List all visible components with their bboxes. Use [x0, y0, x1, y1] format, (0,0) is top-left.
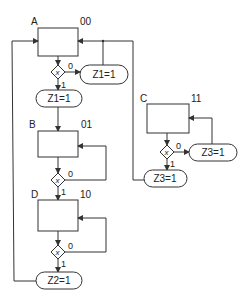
- decision-c-one: 1: [170, 159, 175, 169]
- state-b-box: [38, 131, 78, 157]
- state-b: B 01: [29, 119, 93, 157]
- decision-a-zero: 0: [68, 61, 73, 71]
- decision-c: x 0 1: [160, 141, 181, 169]
- state-d-code: 10: [80, 189, 92, 200]
- state-c-label: C: [140, 93, 147, 104]
- output-c-one-label: Z3=1: [153, 173, 177, 184]
- decision-c-zero: 0: [176, 141, 181, 151]
- state-d-label: D: [31, 189, 38, 200]
- state-b-label: B: [29, 119, 36, 130]
- state-a-box: [38, 28, 78, 56]
- output-c-zero: Z3=1: [189, 144, 237, 161]
- output-a-zero: Z1=1: [80, 65, 128, 84]
- state-c: C 11: [140, 93, 202, 133]
- output-c-one: Z3=1: [144, 170, 187, 187]
- state-c-box: [147, 104, 189, 133]
- decision-d: x 0 1: [51, 241, 73, 269]
- state-c-code: 11: [191, 93, 202, 104]
- decision-d-zero: 0: [68, 241, 73, 251]
- output-a-one-label: Z1=1: [47, 93, 71, 104]
- decision-b-zero: 0: [68, 169, 73, 179]
- state-b-code: 01: [81, 119, 93, 130]
- decision-d-one: 1: [61, 259, 66, 269]
- state-a: A 00: [31, 16, 92, 56]
- decision-a-one: 1: [61, 80, 66, 90]
- asm-chart: A 00 x 0 1 Z1=1 Z1=1 B 01 x 0 1: [0, 0, 245, 296]
- decision-a: x 0 1: [51, 61, 73, 90]
- output-a-zero-label: Z1=1: [92, 69, 116, 80]
- state-a-code: 00: [80, 16, 92, 27]
- state-a-label: A: [31, 16, 38, 27]
- output-d-one-label: Z2=1: [47, 275, 71, 286]
- decision-b-one: 1: [61, 187, 66, 197]
- output-a-one: Z1=1: [36, 90, 82, 107]
- decision-b: x 0 1: [51, 169, 73, 197]
- state-d-box: [38, 200, 78, 231]
- output-c-zero-label: Z3=1: [201, 147, 225, 158]
- output-d-one: Z2=1: [36, 272, 82, 289]
